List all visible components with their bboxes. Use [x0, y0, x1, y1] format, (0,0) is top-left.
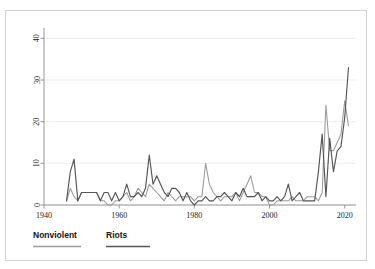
- legend-label-0: Nonviolent: [33, 230, 77, 240]
- y-tick-label: 20: [33, 118, 42, 126]
- legend-label-1: Riots: [106, 230, 128, 240]
- y-tick-label: 10: [33, 159, 42, 167]
- y-tick-label: 30: [33, 76, 42, 84]
- x-tick-label: 1980: [186, 211, 202, 220]
- x-tick-label: 2000: [262, 211, 278, 220]
- y-tick-label: 0: [33, 203, 42, 207]
- series-line-riots: [67, 68, 349, 206]
- gridlines-group: [44, 38, 356, 205]
- x-axis-ticks-group: 19401960198020002020: [36, 205, 353, 220]
- y-axis-ticks-group: 010203040: [33, 34, 45, 207]
- x-tick-label: 2020: [337, 211, 353, 220]
- legend-group: NonviolentRiots: [33, 230, 150, 247]
- x-tick-label: 1940: [36, 211, 52, 220]
- chart-canvas: 010203040 19401960198020002020 Nonviolen…: [0, 0, 375, 269]
- x-tick-label: 1960: [111, 211, 127, 220]
- y-tick-label: 40: [33, 34, 42, 42]
- series-line-nonviolent: [67, 101, 349, 205]
